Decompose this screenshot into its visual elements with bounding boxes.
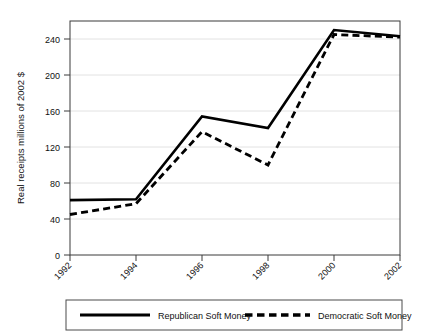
- ytick-label-120: 120: [45, 143, 60, 153]
- chart-figure: 240 200 160 120 80 40 0 Real receipts mi…: [0, 0, 422, 336]
- ytick-label-80: 80: [50, 179, 60, 189]
- ytick-label-160: 160: [45, 107, 60, 117]
- legend-label-republican-soft-money: Republican Soft Money: [158, 311, 252, 321]
- chart-background: [0, 0, 422, 336]
- legend-label-democratic-soft-money: Democratic Soft Money: [318, 311, 412, 321]
- chart-legend: Republican Soft Money Democratic Soft Mo…: [66, 300, 412, 330]
- ytick-label-0: 0: [55, 251, 60, 261]
- line-chart-svg: 240 200 160 120 80 40 0 Real receipts mi…: [0, 0, 422, 336]
- y-axis-title: Real receipts millions of 2002 $: [15, 71, 26, 204]
- ytick-label-40: 40: [50, 215, 60, 225]
- ytick-label-200: 200: [45, 71, 60, 81]
- ytick-label-240: 240: [45, 35, 60, 45]
